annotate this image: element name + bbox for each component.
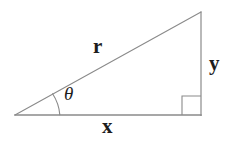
angle-theta-label: θ (64, 84, 73, 103)
hypotenuse-label: r (93, 36, 102, 57)
angle-arc (53, 94, 60, 115)
vertical-leg-label: y (209, 53, 220, 74)
hypotenuse-line (15, 12, 201, 115)
triangle-drawing (0, 0, 237, 147)
right-triangle-figure: r y x θ (0, 0, 237, 147)
base-leg-label: x (102, 116, 113, 137)
right-angle-marker (182, 96, 201, 115)
